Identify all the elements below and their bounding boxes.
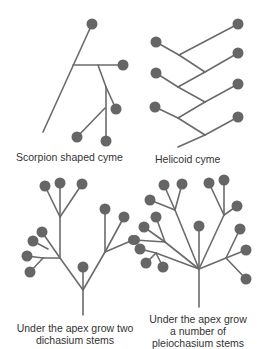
helicoid-cyme-caption: Helicoid cyme: [155, 153, 220, 165]
pleiochasium-caption-line2: a number of: [143, 325, 253, 337]
dichasium-diagram: [22, 178, 139, 316]
scorpion-cyme-diagram: [43, 19, 129, 147]
helicoid-cyme-diagram: [150, 19, 244, 148]
dichasium-caption: Under the apex grow two dichasium stems: [10, 322, 140, 346]
pleiochasium-caption-line3: pleiochasium stems: [143, 337, 253, 349]
pleiochasium-caption-line1: Under the apex grow: [143, 313, 253, 325]
dichasium-caption-line1: Under the apex grow two: [10, 322, 140, 334]
pleiochasium-diagram: [130, 175, 252, 308]
dichasium-caption-line2: dichasium stems: [10, 334, 140, 346]
scorpion-cyme-caption: Scorpion shaped cyme: [16, 151, 123, 163]
pleiochasium-caption: Under the apex grow a number of pleiocha…: [143, 313, 253, 349]
